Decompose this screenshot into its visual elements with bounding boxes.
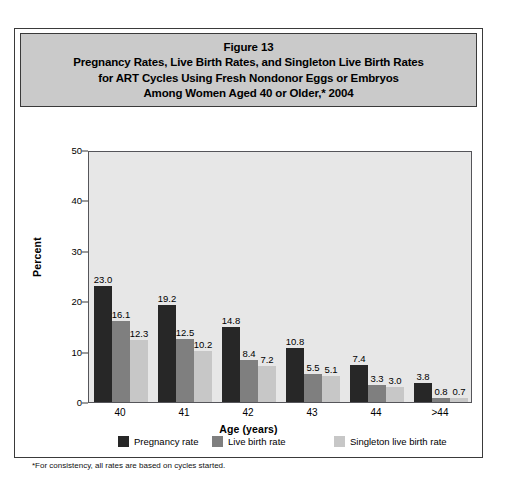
- bar-column[interactable]: 0.8: [432, 152, 450, 402]
- bar[interactable]: [414, 383, 432, 402]
- bar-column[interactable]: 12.3: [130, 152, 148, 402]
- bar[interactable]: [158, 305, 176, 402]
- bar-value-label: 7.2: [260, 355, 273, 365]
- bar-value-label: 5.1: [324, 365, 337, 375]
- bar-group: 19.212.510.2: [158, 152, 212, 402]
- y-tick-label: 40: [52, 196, 82, 206]
- bar-value-label: 3.0: [388, 376, 401, 386]
- bar-column[interactable]: 10.8: [286, 152, 304, 402]
- x-tick-label: 42: [242, 407, 253, 418]
- bar-column[interactable]: 7.4: [350, 152, 368, 402]
- bar[interactable]: [286, 348, 304, 402]
- bar[interactable]: [112, 321, 130, 402]
- x-tick-label: 41: [178, 407, 189, 418]
- bar[interactable]: [368, 385, 386, 402]
- bar-column[interactable]: 8.4: [240, 152, 258, 402]
- bar-column[interactable]: 19.2: [158, 152, 176, 402]
- bar[interactable]: [240, 360, 258, 402]
- bar-value-label: 14.8: [222, 316, 241, 326]
- legend-swatch: [334, 436, 345, 447]
- bar[interactable]: [222, 327, 240, 402]
- figure-card: Figure 13 Pregnancy Rates, Live Birth Ra…: [14, 28, 483, 458]
- bar-value-label: 3.8: [416, 372, 429, 382]
- legend-swatch: [118, 436, 129, 447]
- bar-value-label: 0.7: [452, 387, 465, 397]
- plot-frame: 23.016.112.319.212.510.214.88.47.210.85.…: [88, 151, 472, 403]
- legend-item[interactable]: Singleton live birth rate: [334, 433, 447, 449]
- figure-title-block: Figure 13 Pregnancy Rates, Live Birth Ra…: [20, 33, 477, 107]
- bar-column[interactable]: 12.5: [176, 152, 194, 402]
- legend-label: Pregnancy rate: [134, 436, 198, 447]
- bar-column[interactable]: 3.3: [368, 152, 386, 402]
- y-tick-label: 10: [52, 348, 82, 358]
- bar[interactable]: [258, 366, 276, 402]
- bar-value-label: 16.1: [112, 310, 131, 320]
- bar-value-label: 5.5: [306, 363, 319, 373]
- bar[interactable]: [450, 398, 468, 402]
- bar-value-label: 7.4: [352, 354, 365, 364]
- legend-item[interactable]: Pregnancy rate: [118, 433, 198, 449]
- bar-column[interactable]: 23.0: [94, 152, 112, 402]
- chart-plot-region: Percent 01020304050 23.016.112.319.212.5…: [20, 111, 477, 454]
- bar[interactable]: [322, 376, 340, 402]
- y-tick-label: 0: [52, 398, 82, 408]
- bar[interactable]: [350, 365, 368, 402]
- bar-value-label: 3.3: [370, 374, 383, 384]
- bar[interactable]: [130, 340, 148, 402]
- x-tick-label: 43: [306, 407, 317, 418]
- bar-column[interactable]: 7.2: [258, 152, 276, 402]
- bar-value-label: 23.0: [94, 275, 113, 285]
- figure-footnote: *For consistency, all rates are based on…: [32, 461, 225, 470]
- bar-value-label: 10.2: [194, 340, 213, 350]
- bar-value-label: 12.5: [176, 328, 195, 338]
- bar-group: 23.016.112.3: [94, 152, 148, 402]
- bar[interactable]: [432, 398, 450, 402]
- bar-group: 10.85.55.1: [286, 152, 340, 402]
- legend-label: Singleton live birth rate: [350, 436, 447, 447]
- bar-column[interactable]: 10.2: [194, 152, 212, 402]
- bar-group: 3.80.80.7: [414, 152, 468, 402]
- figure-title-line-1: Figure 13: [224, 40, 274, 56]
- bar[interactable]: [386, 387, 404, 402]
- figure-title-line-2: Pregnancy Rates, Live Birth Rates, and S…: [73, 55, 424, 71]
- x-tick-label: >44: [432, 407, 449, 418]
- bar[interactable]: [94, 286, 112, 402]
- x-tick-label: 40: [114, 407, 125, 418]
- bar[interactable]: [176, 339, 194, 402]
- bar-value-label: 0.8: [434, 387, 447, 397]
- bar-column[interactable]: 3.8: [414, 152, 432, 402]
- legend-item[interactable]: Live birth rate: [212, 433, 286, 449]
- legend-label: Live birth rate: [228, 436, 286, 447]
- bar-column[interactable]: 3.0: [386, 152, 404, 402]
- bar-column[interactable]: 14.8: [222, 152, 240, 402]
- legend-swatch: [212, 436, 223, 447]
- y-tick-label: 30: [52, 247, 82, 257]
- figure-title-line-3: for ART Cycles Using Fresh Nondonor Eggs…: [98, 71, 399, 87]
- y-tick-label: 20: [52, 297, 82, 307]
- y-tick-label: 50: [52, 146, 82, 156]
- y-axis-title: Percent: [31, 237, 43, 277]
- bar-group: 7.43.33.0: [350, 152, 404, 402]
- bar-value-label: 19.2: [158, 294, 177, 304]
- bar-group: 14.88.47.2: [222, 152, 276, 402]
- x-tick-label: 44: [370, 407, 381, 418]
- chart-legend: Pregnancy rateLive birth rateSingleton l…: [20, 433, 477, 449]
- bar-column[interactable]: 5.1: [322, 152, 340, 402]
- bar-value-label: 8.4: [242, 349, 255, 359]
- figure-title-line-4: Among Women Aged 40 or Older,* 2004: [143, 86, 353, 102]
- bar-value-label: 12.3: [130, 329, 149, 339]
- bar-column[interactable]: 5.5: [304, 152, 322, 402]
- bar[interactable]: [194, 351, 212, 402]
- bar-column[interactable]: 0.7: [450, 152, 468, 402]
- bar-value-label: 10.8: [286, 337, 305, 347]
- bar[interactable]: [304, 374, 322, 402]
- bar-column[interactable]: 16.1: [112, 152, 130, 402]
